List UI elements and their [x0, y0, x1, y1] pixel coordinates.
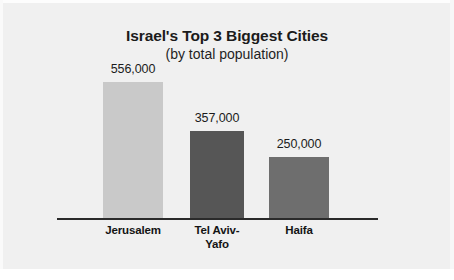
bar-value-tel-aviv-yafo: 357,000 [177, 111, 257, 125]
bar-tel-aviv-yafo[interactable] [190, 131, 244, 219]
bar-haifa[interactable] [269, 157, 329, 219]
x-axis-label-jerusalem: Jerusalem [88, 224, 178, 238]
x-axis-label-jerusalem-line1: Jerusalem [88, 224, 178, 238]
x-axis-label-haifa-line1: Haifa [254, 224, 344, 238]
chart-figure: Israel's Top 3 Biggest Cities (by total … [0, 0, 454, 280]
bar-value-jerusalem: 556,000 [93, 62, 173, 76]
plot-area: 556,000 357,000 250,000 Jerusalem Tel Av… [0, 0, 454, 280]
bar-value-haifa: 250,000 [259, 137, 339, 151]
bar-jerusalem[interactable] [103, 82, 163, 219]
x-axis-label-tel-aviv-yafo-line2: Yafo [172, 238, 262, 252]
x-axis-label-haifa: Haifa [254, 224, 344, 238]
x-axis-label-tel-aviv-yafo: Tel Aviv- Yafo [172, 224, 262, 251]
x-axis-label-tel-aviv-yafo-line1: Tel Aviv- [172, 224, 262, 238]
x-axis-line [57, 218, 378, 220]
